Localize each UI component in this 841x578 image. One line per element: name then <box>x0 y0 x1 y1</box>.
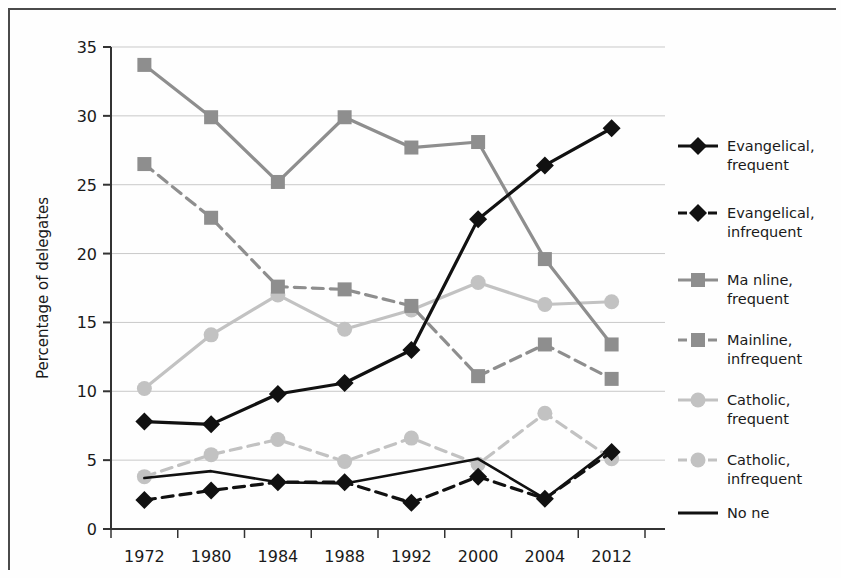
legend-swatch-marker <box>689 204 707 222</box>
legend-swatch-marker <box>689 137 707 155</box>
legend-label-line1: Evangelical, <box>727 138 815 154</box>
x-axis-ticks: 19721980198419881992200020042012 <box>111 529 645 566</box>
legend-label-line2: frequent <box>727 411 789 427</box>
data-point <box>336 473 354 491</box>
series-0 <box>135 119 620 433</box>
data-point <box>404 299 418 313</box>
data-point <box>471 135 485 149</box>
gridlines <box>111 47 665 460</box>
data-point <box>271 280 285 294</box>
legend-item-0[interactable]: Evangelical,frequent <box>678 137 815 173</box>
x-tick-label: 1980 <box>191 547 232 566</box>
data-point <box>603 119 621 137</box>
y-axis-ticks: 05101520253035 <box>77 38 111 539</box>
data-point <box>204 110 218 124</box>
data-point <box>469 468 487 486</box>
data-point <box>471 275 486 290</box>
y-axis-title-text: Percentage of delegates <box>34 197 52 379</box>
x-tick-label: 2000 <box>458 547 499 566</box>
legend-item-5[interactable]: Catholic,infrequent <box>678 452 802 487</box>
data-point <box>538 337 552 351</box>
y-tick-label: 20 <box>77 245 97 264</box>
line-chart: 05101520253035 1972198019841988199220002… <box>0 0 841 578</box>
x-tick-label: 1992 <box>391 547 432 566</box>
data-point <box>337 454 352 469</box>
legend-swatch-marker <box>691 453 706 468</box>
data-point <box>404 141 418 155</box>
series-4 <box>137 275 619 396</box>
legend-label-line1: Ma nline, <box>727 272 793 288</box>
data-point <box>202 415 220 433</box>
data-point <box>137 381 152 396</box>
axes <box>111 47 665 529</box>
legend-item-6[interactable]: No ne <box>678 505 770 521</box>
data-point <box>404 431 419 446</box>
data-point <box>137 58 151 72</box>
legend-swatch-marker <box>691 273 705 287</box>
legend-label-line2: frequent <box>727 291 789 307</box>
data-point <box>202 481 220 499</box>
legend-label-line2: infrequent <box>727 224 802 240</box>
y-axis-title: Percentage of delegates <box>34 197 52 379</box>
data-point <box>402 341 420 359</box>
data-point <box>135 413 153 431</box>
data-point <box>271 175 285 189</box>
data-point <box>269 473 287 491</box>
x-tick-label: 1988 <box>324 547 365 566</box>
legend-item-3[interactable]: Mainline,infrequent <box>678 332 802 367</box>
legend-item-1[interactable]: Evangelical,infrequent <box>678 204 815 240</box>
legend-swatch-marker <box>691 393 706 408</box>
data-point <box>204 447 219 462</box>
series-line <box>144 128 611 424</box>
data-point <box>204 211 218 225</box>
chart-figure: 05101520253035 1972198019841988199220002… <box>0 0 841 578</box>
x-tick-label: 1972 <box>124 547 165 566</box>
data-point <box>336 374 354 392</box>
x-tick-label: 1984 <box>258 547 299 566</box>
data-point <box>137 157 151 171</box>
y-tick-label: 0 <box>87 520 97 539</box>
data-point <box>537 297 552 312</box>
y-tick-label: 30 <box>77 107 97 126</box>
legend-label-line2: frequent <box>727 157 789 173</box>
data-point <box>135 491 153 509</box>
legend-label-line1: Mainline, <box>727 332 792 348</box>
y-tick-label: 10 <box>77 382 97 401</box>
y-tick-label: 5 <box>87 451 97 470</box>
data-point <box>605 337 619 351</box>
y-tick-label: 35 <box>77 38 97 57</box>
legend-label-line2: infrequent <box>727 351 802 367</box>
legend-label-line1: No ne <box>727 505 770 521</box>
legend-label-line1: Catholic, <box>727 452 790 468</box>
data-point <box>537 406 552 421</box>
data-point <box>605 372 619 386</box>
chart-legend: Evangelical,frequentEvangelical,infreque… <box>678 137 815 521</box>
x-tick-label: 2012 <box>591 547 632 566</box>
data-point <box>538 252 552 266</box>
data-point <box>270 432 285 447</box>
legend-label-line2: infrequent <box>727 471 802 487</box>
legend-label-line1: Catholic, <box>727 392 790 408</box>
data-point <box>269 385 287 403</box>
x-tick-label: 2004 <box>525 547 566 566</box>
legend-item-2[interactable]: Ma nline,frequent <box>678 272 793 307</box>
legend-label-line1: Evangelical, <box>727 205 815 221</box>
legend-swatch-marker <box>691 333 705 347</box>
data-point <box>604 294 619 309</box>
series-3 <box>137 157 618 386</box>
data-point <box>204 327 219 342</box>
data-point <box>337 322 352 337</box>
data-point <box>402 494 420 512</box>
data-point <box>471 369 485 383</box>
data-point <box>338 282 352 296</box>
y-tick-label: 15 <box>77 313 97 332</box>
data-point <box>338 110 352 124</box>
y-tick-label: 25 <box>77 176 97 195</box>
data-series <box>135 58 620 512</box>
legend-item-4[interactable]: Catholic,frequent <box>678 392 790 427</box>
